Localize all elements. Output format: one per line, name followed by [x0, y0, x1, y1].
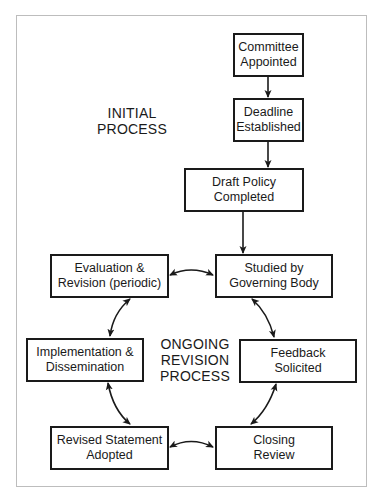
node-draft-policy-completed: Draft Policy Completed — [184, 168, 304, 212]
node-deadline-established: Deadline Established — [233, 98, 304, 142]
node-studied-by-governing-body: Studied by Governing Body — [215, 254, 333, 298]
node-implementation-dissemination: Implementation & Dissemination — [26, 338, 144, 382]
node-evaluation-revision: Evaluation & Revision (periodic) — [50, 254, 169, 298]
diagram-frame — [16, 15, 367, 487]
node-closing-review: Closing Review — [215, 426, 333, 470]
ongoing-revision-process-label: ONGOING REVISION PROCESS — [152, 336, 238, 384]
node-feedback-solicited: Feedback Solicited — [239, 339, 357, 383]
node-committee-appointed: Committee Appointed — [233, 33, 304, 77]
node-revised-statement-adopted: Revised Statement Adopted — [50, 426, 169, 470]
initial-process-label: INITIAL PROCESS — [92, 105, 172, 137]
